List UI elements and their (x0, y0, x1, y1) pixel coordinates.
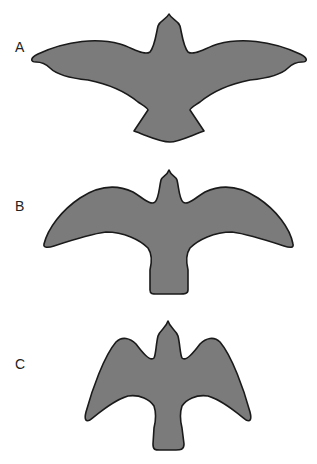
bird-c-icon (85, 321, 251, 450)
bird-a-icon (32, 14, 307, 142)
figure-canvas (0, 0, 317, 464)
bird-b-icon (44, 170, 293, 294)
